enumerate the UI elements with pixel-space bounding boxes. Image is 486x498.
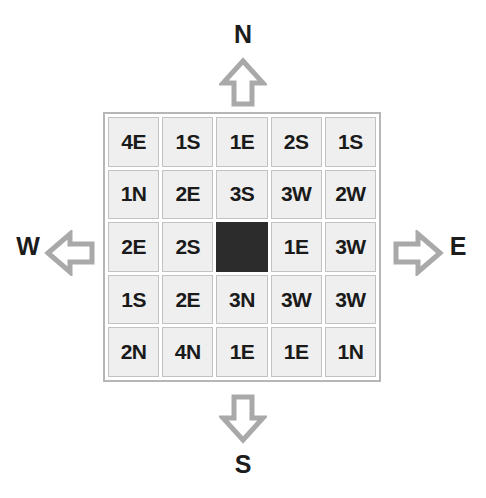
grid-cell[interactable]: 2E bbox=[162, 170, 213, 220]
arrow-right-icon bbox=[392, 230, 444, 276]
grid-cell[interactable]: 1E bbox=[271, 222, 322, 272]
grid-cell[interactable]: 1N bbox=[325, 327, 376, 377]
grid-cell[interactable]: 2N bbox=[108, 327, 159, 377]
grid-cell[interactable]: 1S bbox=[108, 275, 159, 325]
arrow-up-icon bbox=[219, 57, 267, 107]
compass-label-east: E bbox=[438, 234, 478, 259]
grid-cell[interactable]: 1N bbox=[108, 170, 159, 220]
grid-cell-blocked[interactable] bbox=[216, 222, 267, 272]
grid-cell[interactable]: 1E bbox=[271, 327, 322, 377]
grid-cell[interactable]: 2S bbox=[271, 117, 322, 167]
grid-cell[interactable]: 2W bbox=[325, 170, 376, 220]
grid-cell[interactable]: 2E bbox=[162, 275, 213, 325]
arrow-left-icon bbox=[44, 230, 96, 276]
grid-cell[interactable]: 3N bbox=[216, 275, 267, 325]
grid-cell[interactable]: 3W bbox=[271, 275, 322, 325]
grid-cell[interactable]: 3W bbox=[325, 275, 376, 325]
compass-label-north: N bbox=[213, 22, 273, 47]
grid-cell[interactable]: 1E bbox=[216, 327, 267, 377]
puzzle-grid-border: 4E1S1E2S1S1N2E3S3W2W2E2S1E3W1S2E3N3W3W2N… bbox=[103, 112, 381, 382]
grid-cell[interactable]: 1S bbox=[162, 117, 213, 167]
arrow-down-icon bbox=[219, 394, 267, 444]
grid-cell[interactable]: 2S bbox=[162, 222, 213, 272]
grid-cell[interactable]: 4N bbox=[162, 327, 213, 377]
grid-cell[interactable]: 4E bbox=[108, 117, 159, 167]
grid-cell[interactable]: 1S bbox=[325, 117, 376, 167]
compass-label-west: W bbox=[8, 234, 48, 259]
puzzle-grid: 4E1S1E2S1S1N2E3S3W2W2E2S1E3W1S2E3N3W3W2N… bbox=[108, 117, 376, 377]
compass-label-south: S bbox=[213, 452, 273, 477]
grid-cell[interactable]: 3S bbox=[216, 170, 267, 220]
grid-cell[interactable]: 1E bbox=[216, 117, 267, 167]
puzzle-canvas: N S W E 4E1S1E2S1S1N2E3S3W2W2E2S1E3W1S2E… bbox=[0, 0, 486, 498]
grid-cell[interactable]: 2E bbox=[108, 222, 159, 272]
grid-cell[interactable]: 3W bbox=[271, 170, 322, 220]
grid-cell[interactable]: 3W bbox=[325, 222, 376, 272]
